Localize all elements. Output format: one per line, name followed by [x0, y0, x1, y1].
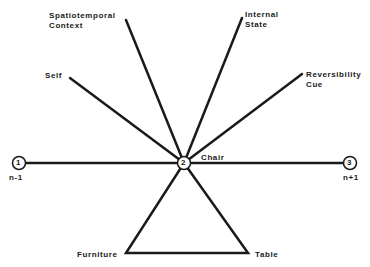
spatiotemporal-label-2: Context — [49, 21, 83, 31]
node-3-id: 3 — [347, 158, 352, 168]
reversibility-label-1: Reversibility — [306, 70, 361, 80]
center-label: Chair — [201, 153, 224, 163]
reversibility-label-2: Cue — [306, 80, 323, 90]
table-label: Table — [255, 250, 278, 260]
node-1-id: 1 — [16, 158, 21, 168]
furniture-label: Furniture — [77, 250, 118, 260]
internal-state-label-1: Internal — [245, 10, 279, 20]
spatiotemporal-label-1: Spatiotemporal — [49, 11, 116, 21]
node-3-label: n+1 — [343, 173, 359, 183]
triangle-furniture-table — [126, 163, 248, 253]
node-1-label: n-1 — [9, 173, 23, 183]
internal-state-label-2: State — [245, 20, 268, 30]
node-2-id: 2 — [181, 158, 186, 168]
diagram-canvas — [0, 0, 370, 267]
self-label: Self — [45, 71, 62, 81]
